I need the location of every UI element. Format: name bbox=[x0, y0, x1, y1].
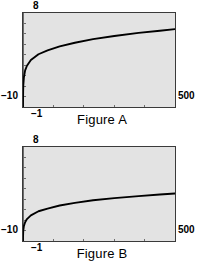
y-axis-max-label-a: 8 bbox=[33, 0, 39, 11]
figure-caption-a: Figure A bbox=[0, 112, 204, 127]
figure-pair-page: 8 −10 500 −1 Figure A 8 −10 500 −1 Figur… bbox=[0, 0, 204, 269]
figure-a: 8 −10 500 −1 Figure A bbox=[0, 0, 204, 134]
plot-canvas-b bbox=[23, 147, 175, 241]
x-axis-max-label-a: 500 bbox=[178, 90, 195, 101]
plot-canvas-a bbox=[23, 13, 175, 107]
x-axis-max-label-b: 500 bbox=[178, 224, 195, 235]
y-axis-max-label-b: 8 bbox=[33, 134, 39, 145]
y-axis-min-label-b: −10 bbox=[1, 224, 18, 235]
data-curve bbox=[23, 29, 175, 107]
data-curve bbox=[23, 193, 175, 241]
y-axis-min-label-a: −10 bbox=[1, 90, 18, 101]
figure-b: 8 −10 500 −1 Figure B bbox=[0, 134, 204, 269]
plot-area-a bbox=[22, 12, 176, 108]
plot-area-b bbox=[22, 146, 176, 242]
figure-caption-b: Figure B bbox=[0, 246, 204, 261]
